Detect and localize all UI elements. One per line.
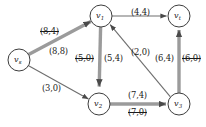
edge-label-v3-vt-old: (6,0) (182, 54, 201, 62)
edge-label-vs-v1-new: (8,8) (49, 47, 68, 55)
node-label-vs: vs (14, 56, 21, 64)
node-label-v1: v1 (96, 12, 104, 20)
edge-label-v2-v3-old: (7,0) (128, 108, 147, 116)
edge-label-v3-vt-new: (6,4) (155, 54, 174, 62)
node-label-vt: vt (174, 12, 181, 20)
flow-network-diagram: vs v1 vt v2 v3 (8,4) (8,8) (3,0) (4,4) (… (0, 0, 206, 127)
node-label-v3: v3 (174, 100, 182, 108)
edge-label-v1-vt: (4,4) (131, 8, 150, 16)
edge-label-vs-v1-old: (8,4) (40, 27, 59, 35)
edge-label-vs-v2: (3,0) (42, 84, 61, 92)
node-label-v2: v2 (94, 100, 102, 108)
edge-label-v1-v2-new: (5,4) (104, 54, 123, 62)
edge-label-v3-v1: (2,0) (131, 48, 150, 56)
edge-label-v1-v2-old: (5,0) (75, 54, 94, 62)
edge-v1-to-v2 (99, 27, 100, 87)
edge-label-v2-v3-new: (7,4) (128, 91, 147, 99)
